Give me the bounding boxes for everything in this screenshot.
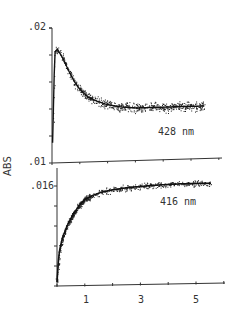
top-annotation: 428 nm	[158, 126, 194, 137]
top-panel-axes	[49, 28, 222, 163]
y-axis-label: ABS	[2, 156, 13, 176]
bottom-x-ticks	[57, 281, 224, 287]
x-tick-label-1: 1	[83, 294, 89, 305]
x-tick-label-3: 3	[138, 294, 144, 305]
kinetics-figure: .02 .01 .016 ABS 428 nm 416 nm 1 3 5	[0, 0, 238, 322]
top-ymax-label: .02	[28, 21, 46, 32]
bottom-ytick-label: .016	[30, 180, 54, 191]
bottom-annotation: 416 nm	[160, 196, 196, 207]
x-tick-label-5: 5	[193, 294, 199, 305]
top-ymin-label: .01	[28, 156, 46, 167]
